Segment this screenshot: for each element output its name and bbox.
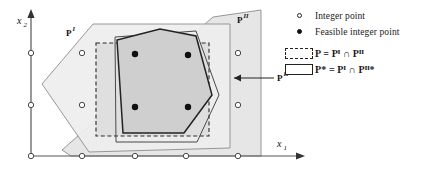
figure-root: x 2 x 1 P I P II P II* Integer point Fea… [0,0,436,173]
feasible-integer-point [185,104,191,110]
legend-label-p-star: P* = Pᴵ ∩ Pᴵᴵ* [315,64,375,75]
y-axis-arrow-icon [27,9,34,18]
legend-key-solid-box [283,64,315,75]
filled-circle-icon [297,29,302,34]
feasible-integer-point [132,51,138,57]
integer-point [132,153,137,158]
y-axis-label-sub: 2 [24,21,28,29]
integer-point [79,153,84,158]
dashed-rectangle-icon [285,48,313,59]
label-p2-superscript: II [243,12,250,19]
integer-point [79,102,84,107]
integer-point [235,102,240,107]
y-axis-label: x [16,15,22,26]
integer-point [28,153,33,158]
integer-point [28,50,33,55]
integer-point [235,50,240,55]
legend-label-p: P = Pᴵ ∩ Pᴵᴵ [315,48,364,59]
legend-key-open-circle [283,13,315,18]
legend: Integer point Feasible integer point P =… [283,8,436,78]
integer-point [235,153,240,158]
legend-row-feasible-integer-point: Feasible integer point [283,24,436,39]
integer-point [79,50,84,55]
open-circle-icon [297,13,302,18]
legend-row-p: P = Pᴵ ∩ Pᴵᴵ [283,46,436,61]
label-p1: P [66,28,72,38]
integer-point [28,102,33,107]
label-p2: P [237,15,243,25]
legend-key-filled-circle [283,29,315,34]
x-axis-label: x [276,138,282,149]
solid-rectangle-icon [285,64,313,75]
feasible-integer-point [185,52,191,58]
legend-row-p-star: P* = Pᴵ ∩ Pᴵᴵ* [283,62,436,77]
integer-point [183,153,188,158]
feasible-integer-point [132,104,138,110]
x-axis-label-sub: 1 [284,144,288,152]
legend-key-dashed-box [283,48,315,59]
legend-label-integer-point: Integer point [315,11,365,21]
legend-row-integer-point: Integer point [283,8,436,23]
legend-label-feasible-integer-point: Feasible integer point [315,27,400,37]
x-axis-arrow-icon [296,152,305,159]
label-p1-superscript: I [72,25,76,32]
